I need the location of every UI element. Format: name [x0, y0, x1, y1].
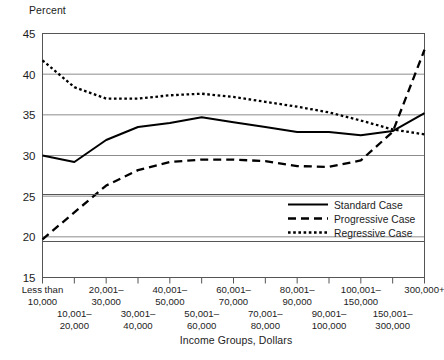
- chart-container: Percent 45403530252015 Less than10,00020…: [0, 0, 444, 360]
- x-tick-label: 10,000: [28, 296, 57, 307]
- x-tick-label: 300,000+: [404, 284, 444, 295]
- x-tick-label: 30,001–: [121, 308, 156, 319]
- x-tick-label: 30,000: [91, 296, 120, 307]
- x-tick-label: 300,000: [375, 320, 410, 331]
- x-tick-label: 70,001–: [248, 308, 283, 319]
- x-tick-label: 90,001–: [312, 308, 347, 319]
- x-axis-tick-labels: Less than10,00020,001–30,00040,001–50,00…: [22, 284, 444, 331]
- legend-label: Progressive Case: [334, 214, 416, 225]
- y-tick-label: 25: [23, 191, 36, 203]
- x-tick-label: Less than: [22, 284, 64, 295]
- y-tick-label: 35: [23, 109, 36, 121]
- y-tick-label: 40: [23, 69, 36, 81]
- x-tick-label: 70,000: [219, 296, 248, 307]
- x-tick-label: 150,001–: [373, 308, 414, 319]
- x-tick-label: 40,001–: [152, 284, 187, 295]
- series-line-dotted: [43, 60, 425, 134]
- legend: Standard CaseProgressive CaseRegressive …: [43, 195, 425, 242]
- x-axis-ticks: [43, 278, 425, 284]
- legend-label: Standard Case: [334, 200, 403, 211]
- x-tick-label: 10,001–: [57, 308, 92, 319]
- x-tick-label: 100,001–: [341, 284, 382, 295]
- y-tick-label: 20: [23, 231, 36, 243]
- x-tick-label: 50,000: [155, 296, 184, 307]
- x-tick-label: 90,000: [282, 296, 311, 307]
- x-tick-label: 80,000: [251, 320, 280, 331]
- x-tick-label: 20,000: [60, 320, 89, 331]
- x-tick-label: 50,001–: [184, 308, 219, 319]
- x-tick-label: 20,001–: [89, 284, 124, 295]
- x-tick-label: 60,000: [187, 320, 216, 331]
- y-tick-label: 45: [23, 28, 36, 40]
- chart-svg: 45403530252015 Less than10,00020,001–30,…: [0, 0, 444, 360]
- x-tick-label: 150,000: [343, 296, 378, 307]
- x-tick-label: 100,000: [312, 320, 347, 331]
- legend-label: Regressive Case: [334, 228, 413, 239]
- data-series-group: [43, 50, 425, 240]
- y-axis-tick-labels: 45403530252015: [23, 28, 36, 284]
- x-tick-label: 80,001–: [280, 284, 315, 295]
- x-axis-title: Income Groups, Dollars: [0, 334, 444, 346]
- x-tick-label: 60,001–: [216, 284, 251, 295]
- x-tick-label: 40,000: [123, 320, 152, 331]
- y-tick-label: 15: [23, 272, 36, 284]
- y-tick-label: 30: [23, 150, 36, 162]
